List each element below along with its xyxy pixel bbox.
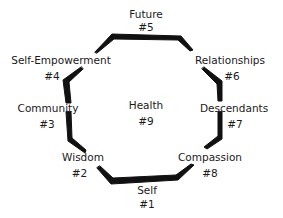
node-number: #1 (137, 198, 157, 211)
node-health-center: Health #9 (129, 99, 163, 128)
node-label: Relationships (195, 54, 265, 67)
node-label: Community (18, 102, 79, 115)
node-label: Descendants (200, 102, 268, 115)
node-wisdom: Wisdom #2 (62, 151, 104, 180)
node-descendants: Descendants #7 (200, 102, 268, 131)
center-number: #9 (129, 115, 163, 128)
center-label: Health (129, 99, 163, 112)
node-number: #6 (199, 70, 265, 83)
node-self-empowerment: Self-Empowerment #4 (11, 54, 111, 83)
node-label: Wisdom (62, 151, 104, 164)
node-compassion: Compassion #8 (178, 151, 242, 180)
node-number: #8 (178, 167, 242, 180)
node-label: Self-Empowerment (11, 54, 111, 67)
node-number: #3 (16, 118, 79, 131)
node-self: Self #1 (137, 184, 157, 211)
edge-4-5-6 (95, 34, 193, 53)
node-number: #5 (129, 21, 162, 34)
node-relationships: Relationships #6 (195, 54, 265, 83)
node-number: #4 (0, 70, 111, 83)
node-future: Future #5 (129, 8, 162, 34)
node-label: Future (129, 8, 162, 21)
health-octagon-diagram: Future #5 Self-Empowerment #4 Relationsh… (0, 0, 283, 218)
node-label: Self (137, 184, 157, 197)
node-number: #2 (55, 167, 104, 180)
node-community: Community #3 (18, 102, 79, 131)
node-number: #7 (202, 118, 268, 131)
node-label: Compassion (178, 151, 242, 164)
